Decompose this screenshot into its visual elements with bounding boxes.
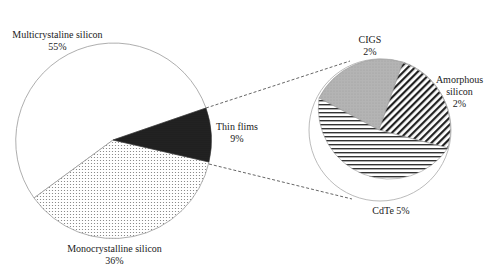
label-cigs-pct: 2% — [355, 46, 385, 58]
label-amorphous-pct: 2% — [432, 98, 487, 110]
label-thin-films: Thin flims 9% — [212, 121, 262, 145]
label-multicrystaline-pct: 55% — [10, 41, 105, 53]
label-thin-films-name: Thin flims — [212, 121, 262, 133]
label-multicrystaline: Multicrystaline silicon 55% — [10, 29, 105, 53]
label-cigs-name: CIGS — [355, 34, 385, 46]
label-amorphous-name1: Amorphous — [432, 74, 487, 86]
label-cdte: CdTe 5% — [370, 205, 412, 217]
thin-films-pie — [309, 59, 451, 201]
label-cdte-name: CdTe 5% — [370, 205, 412, 217]
label-thin-films-pct: 9% — [212, 133, 262, 145]
main-pie — [16, 43, 212, 239]
label-monocrystalline-pct: 36% — [62, 255, 167, 267]
label-multicrystaline-name: Multicrystaline silicon — [10, 29, 105, 41]
label-amorphous: Amorphous silicon 2% — [432, 74, 487, 110]
label-monocrystalline-name: Monocrystalline silicon — [62, 243, 167, 255]
label-cigs: CIGS 2% — [355, 34, 385, 58]
label-monocrystalline: Monocrystalline silicon 36% — [62, 243, 167, 267]
label-amorphous-name2: silicon — [432, 86, 487, 98]
